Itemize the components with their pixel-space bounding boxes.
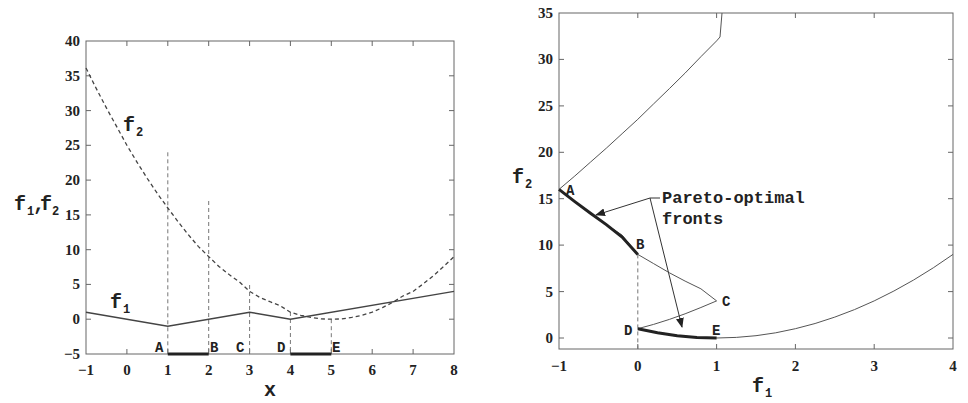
left-xtick: 8 — [450, 362, 458, 378]
left-ytick: 35 — [65, 68, 80, 84]
right-ytick: 5 — [546, 284, 554, 300]
left-xtick: 4 — [287, 362, 295, 378]
ylabel-f1: f — [14, 193, 26, 216]
right-plot-frame — [559, 13, 953, 349]
right-xtick: 2 — [792, 358, 800, 374]
annotation-line2: fronts — [662, 210, 723, 229]
left-guide-lines — [168, 152, 331, 354]
ylabel-f2: f — [40, 193, 52, 216]
f1-label: f — [110, 291, 122, 314]
point-label-a: A — [566, 183, 575, 199]
right-xtick: 1 — [713, 358, 721, 374]
left-ytick: 0 — [73, 311, 81, 327]
pareto-annotation-text: Pareto-optimal fronts — [662, 189, 805, 229]
right-ytick: 10 — [538, 237, 553, 253]
left-ytick: 30 — [65, 103, 80, 119]
left-ytick: 20 — [65, 172, 80, 188]
point-label-b: B — [636, 237, 645, 253]
point-label-a: A — [155, 340, 164, 356]
right-xtick: 4 — [949, 358, 957, 374]
right-x-tick-labels: −1 0 1 2 3 4 — [551, 358, 957, 374]
ylabel-f: f — [512, 166, 524, 189]
left-ytick: 10 — [65, 242, 80, 258]
ylabel-sub: 2 — [525, 178, 532, 192]
left-xtick: 5 — [328, 362, 336, 378]
pareto-front-ab — [559, 189, 638, 254]
left-y-axis-title: f 1 , f 2 — [14, 193, 59, 219]
left-y-ticks — [86, 76, 454, 319]
f2-curve-label: f 2 — [123, 114, 143, 140]
f1-curve — [86, 291, 454, 326]
right-xtick: 3 — [870, 358, 878, 374]
left-xtick: 1 — [164, 362, 172, 378]
right-ytick: 15 — [538, 191, 553, 207]
annotation-line1: Pareto-optimal — [662, 189, 805, 208]
f1-label-sub: 1 — [123, 303, 130, 317]
point-label-e: E — [712, 323, 720, 339]
objective-curve-seg3 — [638, 301, 717, 329]
left-x-ticks — [127, 41, 413, 354]
right-xtick: −1 — [551, 358, 567, 374]
point-label-c: C — [722, 294, 731, 310]
point-label-e: E — [332, 340, 340, 356]
right-ytick: 0 — [546, 330, 554, 346]
left-ytick: −5 — [64, 346, 80, 362]
right-y-axis-title: f 2 — [512, 166, 532, 192]
right-ytick: 20 — [538, 144, 553, 160]
left-xtick: 3 — [246, 362, 254, 378]
xlabel-f: f — [752, 375, 764, 398]
left-y-tick-labels: −5 0 5 10 15 20 25 30 35 40 — [64, 33, 80, 362]
objective-curve-seg4 — [638, 254, 953, 338]
left-x-axis-title: x — [264, 379, 276, 402]
left-xtick: 2 — [205, 362, 213, 378]
objective-curve-seg1 — [559, 13, 722, 189]
right-ytick: 25 — [538, 98, 553, 114]
f2-label: f — [123, 114, 135, 137]
f1-curve-label: f 1 — [110, 291, 130, 317]
figure: −1 0 1 2 3 4 5 6 7 8 −5 0 5 10 15 20 25 … — [0, 0, 968, 403]
pareto-front-de — [638, 329, 717, 338]
right-x-axis-title: f 1 — [752, 375, 772, 401]
left-ytick: 40 — [65, 33, 80, 49]
left-chart: −1 0 1 2 3 4 5 6 7 8 −5 0 5 10 15 20 25 … — [14, 33, 458, 402]
left-xtick: 7 — [409, 362, 417, 378]
right-x-ticks — [638, 13, 874, 349]
left-xtick: −1 — [78, 362, 94, 378]
left-ytick: 15 — [65, 207, 80, 223]
right-xtick: 0 — [634, 358, 642, 374]
f2-curve — [86, 68, 454, 319]
left-xtick: 6 — [368, 362, 376, 378]
point-label-b: B — [210, 340, 219, 356]
left-ytick: 25 — [65, 137, 80, 153]
ylabel-sub2: 2 — [52, 205, 59, 219]
left-ytick: 5 — [73, 276, 81, 292]
point-label-d: D — [277, 340, 285, 356]
left-x-tick-labels: −1 0 1 2 3 4 5 6 7 8 — [78, 362, 458, 378]
left-plot-frame — [86, 41, 454, 354]
right-ytick: 35 — [538, 5, 553, 21]
f2-label-sub: 2 — [136, 126, 143, 140]
xlabel-sub: 1 — [765, 387, 772, 401]
right-chart: −1 0 1 2 3 4 0 5 10 15 20 25 30 35 f 1 f… — [512, 5, 957, 401]
right-y-tick-labels: 0 5 10 15 20 25 30 35 — [538, 5, 553, 346]
right-ytick: 30 — [538, 51, 553, 67]
point-label-c: C — [236, 340, 245, 356]
point-label-d: D — [624, 323, 632, 339]
left-xtick: 0 — [123, 362, 131, 378]
